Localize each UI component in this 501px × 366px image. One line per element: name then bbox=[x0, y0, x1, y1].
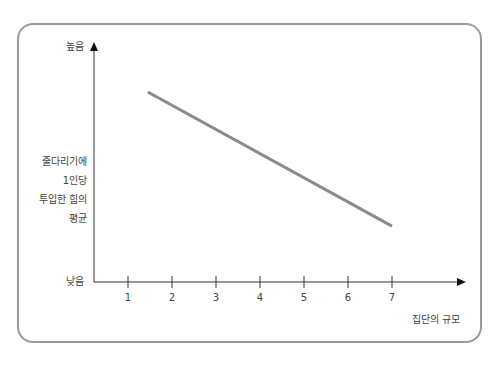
y-title-line-4: 평균 bbox=[39, 209, 87, 228]
x-tick-label-5: 5 bbox=[296, 292, 312, 303]
x-tick-label-2: 2 bbox=[164, 292, 180, 303]
x-tick-label-6: 6 bbox=[340, 292, 356, 303]
y-title-line-1: 줄다리기에 bbox=[39, 152, 87, 171]
y-low-label: 낮음 bbox=[66, 275, 84, 289]
y-high-label: 높음 bbox=[66, 40, 84, 54]
y-axis-title: 줄다리기에 1인당 투입한 힘의 평균 bbox=[39, 152, 87, 228]
x-axis-arrow-icon bbox=[457, 278, 466, 286]
x-tick-label-1: 1 bbox=[120, 292, 136, 303]
y-axis-arrow-icon bbox=[90, 42, 98, 51]
x-tick-label-3: 3 bbox=[208, 292, 224, 303]
y-title-line-3: 투입한 힘의 bbox=[39, 190, 87, 209]
x-axis-title: 집단의 규모 bbox=[412, 313, 460, 327]
x-tick-label-7: 7 bbox=[384, 292, 400, 303]
y-title-line-2: 1인당 bbox=[39, 171, 87, 190]
data-line bbox=[148, 92, 392, 226]
x-tick-label-4: 4 bbox=[252, 292, 268, 303]
